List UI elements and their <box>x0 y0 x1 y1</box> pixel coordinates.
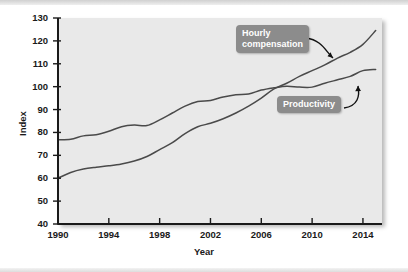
callout-hourly-compensation[interactable]: Hourly compensation <box>236 25 309 53</box>
figure-container: 405060708090100110120130 199019941998200… <box>0 0 408 272</box>
x-axis-title: Year <box>0 246 408 257</box>
y-tick-label: 100 <box>18 82 48 92</box>
bottom-divider-band <box>0 268 408 272</box>
x-tick-label: 2014 <box>343 229 383 240</box>
y-tick-label: 40 <box>18 219 48 229</box>
x-tick-label: 1998 <box>140 229 180 240</box>
y-tick-label: 60 <box>18 173 48 183</box>
y-tick-label: 120 <box>18 36 48 46</box>
y-tick-label: 130 <box>18 13 48 23</box>
callout-productivity[interactable]: Productivity <box>277 96 341 113</box>
x-tick-label: 2002 <box>190 229 230 240</box>
x-tick-label: 2010 <box>292 229 332 240</box>
chart-lines-svg <box>58 18 382 224</box>
y-tick-label: 110 <box>18 59 48 69</box>
x-tick-label: 1990 <box>38 229 78 240</box>
top-divider-band <box>0 0 408 5</box>
plot-area <box>58 18 382 224</box>
y-axis-title: Index <box>17 94 28 154</box>
x-tick-label: 2006 <box>241 229 281 240</box>
x-tick-label: 1994 <box>89 229 129 240</box>
y-tick-label: 50 <box>18 196 48 206</box>
